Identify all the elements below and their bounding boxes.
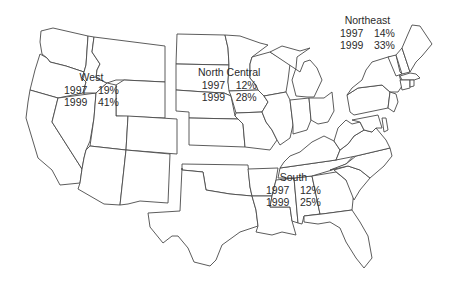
stat-row: 1999 28% <box>198 91 260 104</box>
state-delaware <box>382 118 388 132</box>
state-new-jersey <box>388 92 398 112</box>
year: 1999 <box>202 91 228 104</box>
region-name: West <box>64 71 119 84</box>
year: 1999 <box>266 196 292 209</box>
percent: 28% <box>231 91 257 104</box>
state-wyoming <box>116 80 165 118</box>
state-kansas <box>189 118 245 147</box>
state-rhode-island <box>410 80 414 87</box>
year: 1997 <box>266 184 292 197</box>
state-indiana <box>290 98 311 134</box>
region-name: South <box>266 171 321 184</box>
year: 1997 <box>202 79 228 92</box>
percent: 12% <box>231 79 257 92</box>
percent: 33% <box>369 39 395 52</box>
region-west <box>26 28 177 205</box>
stat-row: 1997 14% <box>340 27 395 40</box>
percent: 41% <box>93 96 119 109</box>
percent: 25% <box>295 196 321 209</box>
region-name: North Central <box>198 66 260 79</box>
state-new-mexico <box>120 150 170 205</box>
region-name: Northeast <box>340 14 395 27</box>
year: 1999 <box>340 39 366 52</box>
stat-row: 1999 25% <box>266 196 321 209</box>
stat-row: 1997 12% <box>198 79 260 92</box>
stat-row: 1997 12% <box>266 184 321 197</box>
percent: 14% <box>369 27 395 40</box>
state-colorado <box>126 116 177 154</box>
year: 1997 <box>64 84 90 97</box>
state-florida <box>304 210 372 268</box>
state-north-dakota <box>176 34 229 65</box>
year: 1999 <box>64 96 90 109</box>
region-label-south: South 1997 12% 1999 25% <box>266 171 321 209</box>
stat-row: 1999 41% <box>64 96 119 109</box>
region-label-northeast: Northeast 1997 14% 1999 33% <box>340 14 395 52</box>
stat-row: 1999 33% <box>340 39 395 52</box>
percent: 19% <box>93 84 119 97</box>
state-arizona <box>78 146 126 205</box>
percent: 12% <box>295 184 321 197</box>
region-label-north-central: North Central 1997 12% 1999 28% <box>198 66 260 104</box>
stat-row: 1997 19% <box>64 84 119 97</box>
year: 1997 <box>340 27 366 40</box>
region-label-west: West 1997 19% 1999 41% <box>64 71 119 109</box>
state-connecticut <box>400 80 410 90</box>
